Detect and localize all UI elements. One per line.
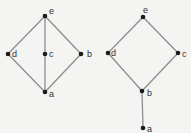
node-c xyxy=(176,51,181,56)
left-lattice: edcba xyxy=(6,6,92,99)
node-label-e: e xyxy=(143,5,148,15)
node-label-b: b xyxy=(87,49,92,59)
node-d xyxy=(6,52,11,57)
node-d xyxy=(106,51,111,56)
node-c xyxy=(43,52,48,57)
right-lattice: edcba xyxy=(106,5,187,133)
node-b xyxy=(140,89,145,94)
edge-c-b xyxy=(142,53,178,91)
node-label-b: b xyxy=(147,88,152,98)
node-label-c: c xyxy=(182,49,187,59)
node-label-d: d xyxy=(12,49,17,59)
edge-b-a xyxy=(142,91,143,128)
hasse-diagrams: edcbaedcba xyxy=(0,0,191,133)
node-a xyxy=(141,126,146,131)
node-b xyxy=(79,52,84,57)
node-label-a: a xyxy=(147,124,152,133)
edge-b-a xyxy=(45,54,81,92)
edge-e-c xyxy=(143,17,178,53)
edge-d-a xyxy=(8,54,45,92)
node-e xyxy=(43,14,48,19)
node-label-a: a xyxy=(49,89,54,99)
node-label-e: e xyxy=(49,6,54,16)
node-label-d: d xyxy=(111,48,116,58)
node-label-c: c xyxy=(49,49,54,59)
node-e xyxy=(141,15,146,20)
edge-d-b xyxy=(108,53,142,91)
node-a xyxy=(43,90,48,95)
